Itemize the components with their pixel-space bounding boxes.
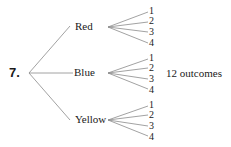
outcome-blue-2: 2	[149, 63, 154, 73]
outcome-count: 12 outcomes	[166, 68, 222, 79]
node-red: Red	[75, 21, 93, 32]
outcome-yellow-2: 2	[149, 110, 154, 120]
outcome-red-2: 2	[149, 16, 154, 26]
branch-root-yellow	[29, 73, 70, 120]
outcome-red-4: 4	[149, 38, 154, 48]
outcome-yellow-4: 4	[149, 132, 154, 142]
outcome-red-3: 3	[149, 27, 154, 37]
problem-number: 7.	[9, 66, 20, 79]
node-yellow: Yellow	[75, 114, 106, 125]
outcome-blue-4: 4	[149, 85, 154, 95]
outcome-blue-3: 3	[149, 74, 154, 84]
outcome-yellow-3: 3	[149, 121, 154, 131]
branch-root-red	[29, 26, 70, 73]
node-blue: Blue	[74, 67, 95, 78]
